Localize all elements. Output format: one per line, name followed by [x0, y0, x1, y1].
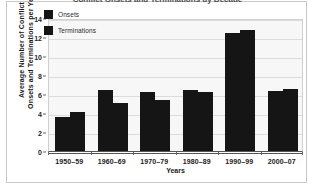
- chart-title-clipped: Conflict Onsets and Terminations by Deca…: [7, 0, 308, 4]
- x-tick-mark: [261, 152, 262, 155]
- y-tick-mark: [43, 76, 46, 77]
- x-tick-mark: [48, 152, 49, 155]
- x-tick-label: 1990–99: [225, 158, 253, 165]
- figure-frame: Conflict Onsets and Terminations by Deca…: [6, 1, 307, 183]
- legend-item-label: Terminations: [58, 27, 96, 34]
- legend-item-terminations: Terminations: [44, 24, 134, 37]
- legend-item-onsets: Onsets: [44, 8, 134, 21]
- y-tick-label: 0: [38, 149, 42, 156]
- legend-item-label: Onsets: [58, 11, 79, 18]
- x-tick-label: 1950–59: [55, 158, 83, 165]
- bar-terminations-1960–69: [113, 103, 128, 151]
- y-tick-label: 4: [38, 111, 42, 118]
- y-tick-mark: [43, 95, 46, 96]
- x-tick-mark: [218, 152, 219, 155]
- y-tick-mark: [43, 57, 46, 58]
- gridline: [49, 77, 302, 78]
- x-tick-label: 1980–89: [183, 158, 211, 165]
- gridline: [49, 134, 302, 135]
- x-tick-mark: [302, 152, 303, 155]
- y-tick-label: 12: [34, 35, 42, 42]
- bar-onsets-1980–89: [183, 90, 198, 151]
- y-tick-mark: [43, 133, 46, 134]
- y-tick-label: 8: [38, 73, 42, 80]
- bar-terminations-2000–07: [283, 89, 298, 151]
- bar-onsets-1960–69: [98, 90, 113, 151]
- x-tick-mark: [91, 152, 92, 155]
- bar-onsets-1950–59: [55, 117, 70, 151]
- y-tick-label: 14: [34, 16, 42, 23]
- gridline: [49, 115, 302, 116]
- chart-legend: OnsetsTerminations: [44, 8, 134, 40]
- x-tick-label: 1960–69: [98, 158, 126, 165]
- gridline: [49, 58, 302, 59]
- bar-onsets-1970–79: [140, 92, 155, 151]
- bar-terminations-1950–59: [70, 112, 85, 151]
- bar-terminations-1980–89: [198, 92, 213, 151]
- bar-terminations-1990–99: [240, 30, 255, 151]
- x-tick-label: 1970–79: [140, 158, 168, 165]
- y-tick-mark: [43, 114, 46, 115]
- x-axis-title: Years: [48, 167, 303, 174]
- bar-onsets-1990–99: [225, 33, 240, 151]
- bar-onsets-2000–07: [268, 91, 283, 151]
- bar-terminations-1970–79: [155, 100, 170, 151]
- y-tick-label: 6: [38, 92, 42, 99]
- x-tick-label: 2000–07: [268, 158, 296, 165]
- y-tick-label: 10: [34, 54, 42, 61]
- y-axis-ticks: 02468101214: [7, 19, 46, 152]
- y-tick-label: 2: [38, 130, 42, 137]
- x-tick-mark: [133, 152, 134, 155]
- x-tick-mark: [176, 152, 177, 155]
- square-swatch-icon: [44, 10, 53, 19]
- square-swatch-icon: [44, 26, 53, 35]
- chart-figure: Conflict Onsets and Terminations by Deca…: [0, 0, 314, 185]
- y-tick-mark: [43, 152, 46, 153]
- gridline: [49, 96, 302, 97]
